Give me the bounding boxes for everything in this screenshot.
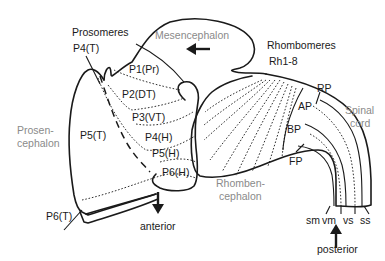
label-prosencephalon-1: Prosen- [17,124,54,136]
mesencephalon-arrow-icon [186,43,210,55]
label-rhombomeres: Rhombomeres [267,39,336,51]
label-ss: ss [360,214,371,226]
bp-inner [305,124,346,206]
label-spinal: Spinal [345,104,374,116]
label-rp: RP [317,82,332,94]
label-posterior: posterior [317,243,358,255]
label-prosomeres: Prosomeres [72,26,129,38]
label-prosencephalon-2: cephalon [17,137,60,149]
label-p1pr: P1(Pr) [129,63,159,75]
label-fp: FP [289,155,302,167]
ap-line [283,88,303,150]
label-anterior: anterior [140,220,176,232]
label-vm: vm [322,214,336,226]
label-p2dt: P2(DT) [122,88,156,100]
label-p3vt: P3(VT) [132,111,165,123]
label-ap: AP [298,100,312,112]
label-rhombencephalon-1: Rhomben- [216,177,266,189]
label-vs: vs [343,214,354,226]
label-sm: sm [306,214,320,226]
label-bp: BP [287,123,301,135]
neural-tube-diagram: Prosomeres P4(T) Mesencephalon Rhombomer… [0,0,385,261]
label-p5h: P5(H) [152,147,179,159]
label-rh1-8: Rh1-8 [269,55,298,67]
rhombomere-boundaries [204,80,296,176]
fp-leader [296,144,304,152]
label-cord: cord [350,117,371,129]
label-mesencephalon: Mesencephalon [155,29,229,41]
label-p4t: P4(T) [73,42,99,54]
label-p4h: P4(H) [145,131,172,143]
label-p6h: P6(H) [162,166,189,178]
label-rhombencephalon-2: cephalon [219,190,262,202]
label-p6t: P6(T) [46,210,72,222]
label-p5t: P5(T) [80,129,106,141]
